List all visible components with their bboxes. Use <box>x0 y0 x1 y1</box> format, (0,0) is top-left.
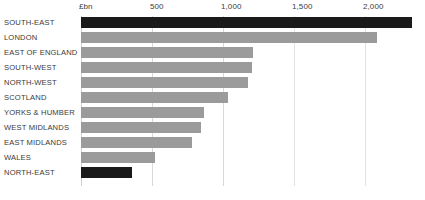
bar-row-label: SOUTH-WEST <box>4 63 78 73</box>
bar <box>81 17 412 28</box>
bar <box>81 122 201 133</box>
bar-row: WALES <box>0 151 425 166</box>
bar-row: LONDON <box>0 31 425 46</box>
bar-row: WEST MIDLANDS <box>0 121 425 136</box>
bar <box>81 92 228 103</box>
bar <box>81 32 377 43</box>
bar-row: NORTH-WEST <box>0 76 425 91</box>
bar <box>81 167 132 178</box>
bar <box>81 77 248 88</box>
x-axis <box>0 0 425 16</box>
bar-row-label: YORKS & HUMBER <box>4 108 78 118</box>
bar-row-label: LONDON <box>4 33 78 43</box>
bar-row-label: EAST MIDLANDS <box>4 138 78 148</box>
bar-row: EAST OF ENGLAND <box>0 46 425 61</box>
bar-row-label: EAST OF ENGLAND <box>4 48 78 58</box>
x-tick-label-1000: 1,000 <box>221 2 242 12</box>
bar-row: EAST MIDLANDS <box>0 136 425 151</box>
bar-row: SOUTH-WEST <box>0 61 425 76</box>
bar-row-label: SCOTLAND <box>4 93 78 103</box>
bar-row: NORTH-EAST <box>0 166 425 181</box>
bar-row: YORKS & HUMBER <box>0 106 425 121</box>
bar-row-label: WEST MIDLANDS <box>4 123 78 133</box>
bar-chart: £bn5001,0001,5002,000 SOUTH-EASTLONDONEA… <box>0 0 425 200</box>
bar <box>81 47 253 58</box>
x-tick-label-500: 500 <box>150 2 164 12</box>
bar <box>81 137 192 148</box>
bar-row-label: SOUTH-EAST <box>4 18 78 28</box>
bar-row-label: NORTH-WEST <box>4 78 78 88</box>
bar-row: SOUTH-EAST <box>0 16 425 31</box>
bar <box>81 152 155 163</box>
bar <box>81 62 252 73</box>
bar-rows: SOUTH-EASTLONDONEAST OF ENGLANDSOUTH-WES… <box>0 16 425 186</box>
x-tick-label-unit: £bn <box>79 2 93 12</box>
bar <box>81 107 204 118</box>
bar-row-label: WALES <box>4 153 78 163</box>
x-tick-label-2000: 2,000 <box>363 2 384 12</box>
bar-row-label: NORTH-EAST <box>4 168 78 178</box>
x-tick-label-1500: 1,500 <box>292 2 313 12</box>
bar-row: SCOTLAND <box>0 91 425 106</box>
